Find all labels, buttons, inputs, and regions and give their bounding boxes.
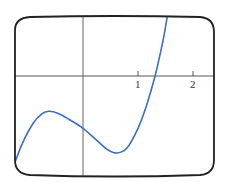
- x-tick-label-2: 2: [190, 79, 196, 90]
- x-tick-label-1: 1: [135, 79, 141, 90]
- function-plot: [0, 0, 227, 182]
- function-curve: [15, 17, 167, 163]
